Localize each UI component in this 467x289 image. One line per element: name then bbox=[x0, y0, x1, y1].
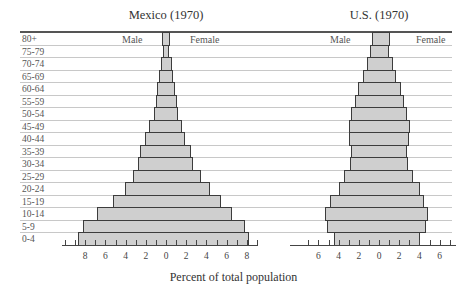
us-bar-50-54 bbox=[351, 107, 408, 121]
mexico-bar-60-64 bbox=[157, 82, 175, 96]
us-bar-55-59 bbox=[355, 95, 404, 109]
mexico-bar-15-19 bbox=[113, 195, 220, 209]
axis-tick-label: 0 bbox=[164, 251, 169, 261]
age-group-label: 60-64 bbox=[22, 83, 44, 95]
mexico-bar-45-49 bbox=[149, 120, 182, 134]
axis-tick bbox=[65, 240, 66, 245]
mexico-bar-25-29 bbox=[133, 170, 202, 184]
axis-tick-label: 2 bbox=[356, 251, 361, 261]
axis-tick bbox=[359, 240, 360, 245]
mexico-bar-35-39 bbox=[140, 145, 192, 159]
mexico-bar-40-44 bbox=[145, 132, 185, 146]
axis-tick-label: 4 bbox=[204, 251, 209, 261]
us-bar-75-79 bbox=[370, 45, 389, 59]
axis-tick bbox=[217, 240, 218, 245]
axis-tick-label: 2 bbox=[184, 251, 189, 261]
age-group-label: 25-29 bbox=[22, 171, 44, 183]
axis-tick bbox=[430, 240, 431, 245]
us-bar-65-69 bbox=[363, 70, 396, 84]
axis-tick bbox=[186, 240, 187, 245]
axis-tick bbox=[318, 240, 319, 245]
us-bar-10-14 bbox=[325, 207, 428, 221]
age-group-label: 0-4 bbox=[22, 233, 35, 245]
us-bar-20-24 bbox=[339, 182, 421, 196]
axis-tick bbox=[329, 240, 330, 245]
age-group-label: 65-69 bbox=[22, 71, 44, 83]
axis-tick bbox=[85, 240, 86, 245]
axis-tick bbox=[95, 240, 96, 245]
axis-tick bbox=[257, 240, 258, 245]
axis-tick bbox=[75, 240, 76, 245]
x-axis-label: Percent of total population bbox=[0, 270, 467, 285]
mexico-bar-75-79 bbox=[163, 45, 169, 59]
mexico-bar-50-54 bbox=[154, 107, 178, 121]
axis-tick bbox=[308, 240, 309, 245]
us-bar-5-9 bbox=[327, 220, 426, 234]
mexico-bar-0-4 bbox=[78, 232, 249, 246]
us-bar-35-39 bbox=[351, 145, 408, 159]
age-group-label: 15-19 bbox=[22, 196, 44, 208]
us-bar-45-49 bbox=[349, 120, 411, 134]
axis-tick bbox=[379, 240, 380, 245]
axis-tick bbox=[409, 240, 410, 245]
mexico-x-axis bbox=[62, 245, 258, 246]
axis-tick-label: 6 bbox=[224, 251, 229, 261]
us-x-axis bbox=[290, 245, 456, 246]
mexico-bar-30-34 bbox=[138, 157, 194, 171]
axis-tick-label: 4 bbox=[417, 251, 422, 261]
age-group-label: 35-39 bbox=[22, 146, 44, 158]
age-group-label: 45-49 bbox=[22, 121, 44, 133]
axis-tick bbox=[339, 240, 340, 245]
mexico-bar-5-9 bbox=[83, 220, 245, 234]
mexico-bar-20-24 bbox=[125, 182, 211, 196]
us-bar-30-34 bbox=[350, 157, 409, 171]
axis-tick bbox=[146, 240, 147, 245]
axis-tick bbox=[156, 240, 157, 245]
mexico-male-label: Male bbox=[122, 34, 143, 45]
us-bar-25-29 bbox=[344, 170, 414, 184]
axis-tick-label: 4 bbox=[123, 251, 128, 261]
axis-tick-label: 8 bbox=[83, 251, 88, 261]
axis-tick bbox=[399, 240, 400, 245]
mexico-bar-10-14 bbox=[97, 207, 231, 221]
age-group-label: 70-74 bbox=[22, 58, 44, 70]
axis-tick bbox=[247, 240, 248, 245]
us-bar-15-19 bbox=[330, 195, 425, 209]
axis-tick-label: 6 bbox=[316, 251, 321, 261]
axis-tick-label: 4 bbox=[336, 251, 341, 261]
mexico-bar-65-69 bbox=[159, 70, 173, 84]
axis-tick bbox=[369, 240, 370, 245]
axis-tick-label: 6 bbox=[103, 251, 108, 261]
axis-tick bbox=[116, 240, 117, 245]
us-male-label: Male bbox=[330, 34, 351, 45]
age-group-label: 55-59 bbox=[22, 96, 44, 108]
age-group-label: 50-54 bbox=[22, 108, 44, 120]
age-group-label: 80+ bbox=[22, 33, 37, 45]
axis-tick bbox=[450, 240, 451, 245]
mexico-bar-70-74 bbox=[161, 57, 172, 71]
axis-tick bbox=[105, 240, 106, 245]
axis-tick-label: 8 bbox=[244, 251, 249, 261]
axis-tick bbox=[176, 240, 177, 245]
axis-tick bbox=[227, 240, 228, 245]
age-group-label: 30-34 bbox=[22, 158, 44, 170]
axis-tick bbox=[389, 240, 390, 245]
axis-tick bbox=[136, 240, 137, 245]
mexico-chart-title: Mexico (1970) bbox=[129, 8, 204, 23]
axis-tick bbox=[349, 240, 350, 245]
us-bar-40-44 bbox=[349, 132, 410, 146]
mexico-bar-55-59 bbox=[156, 95, 177, 109]
axis-tick bbox=[440, 240, 441, 245]
axis-tick bbox=[419, 240, 420, 245]
age-group-label: 40-44 bbox=[22, 133, 44, 145]
age-group-label: 5-9 bbox=[22, 221, 35, 233]
axis-tick-label: 6 bbox=[437, 251, 442, 261]
us-bar-70-74 bbox=[367, 57, 393, 71]
mexico-female-label: Female bbox=[190, 34, 219, 45]
axis-tick-label: 2 bbox=[397, 251, 402, 261]
axis-tick bbox=[237, 240, 238, 245]
mexico-bar-80+ bbox=[162, 32, 170, 46]
axis-tick-label: 0 bbox=[377, 251, 382, 261]
us-female-label: Female bbox=[416, 34, 445, 45]
axis-tick-label: 2 bbox=[143, 251, 148, 261]
